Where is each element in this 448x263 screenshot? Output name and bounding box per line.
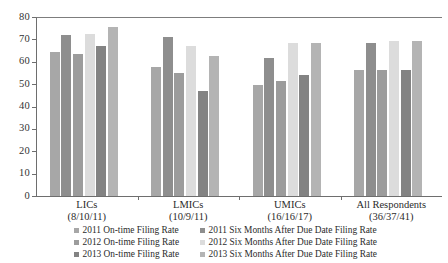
x-axis-group-name: LMICs [173, 199, 203, 210]
legend-item[interactable]: 2013 Six Months After Due Date Filing Ra… [200, 248, 442, 260]
x-axis-group-label: LMICs(10/9/11) [138, 199, 240, 223]
x-axis-group-label: All Respondents(36/37/41) [341, 199, 443, 223]
legend-swatch-icon [200, 240, 205, 245]
x-axis-group-name: All Respondents [356, 199, 426, 210]
x-axis-group-count: (36/37/41) [341, 211, 443, 223]
y-axis-tick-label: 80 [0, 12, 30, 22]
legend-item[interactable]: 2012 Six Months After Due Date Filing Ra… [200, 236, 442, 248]
x-axis-group-label: LICs(8/10/11) [36, 199, 138, 223]
y-axis-tick-label: 70 [0, 34, 30, 44]
x-axis-group-name: UMICs [274, 199, 306, 210]
legend-label: 2013 Six Months After Due Date Filing Ra… [209, 248, 377, 260]
bar [73, 54, 83, 196]
bar-group [253, 17, 321, 196]
bar [163, 37, 173, 196]
bar [366, 43, 376, 196]
y-axis-tick-label: 40 [0, 101, 30, 111]
bar [253, 85, 263, 196]
legend-item[interactable]: 2011 On-time Filing Rate [74, 224, 196, 236]
bar-group [354, 17, 422, 196]
legend-swatch-icon [74, 228, 79, 233]
legend-label: 2011 Six Months After Due Date Filing Ra… [209, 224, 377, 236]
bar [264, 58, 274, 196]
chart-legend: 2011 On-time Filing Rate2011 Six Months … [74, 224, 442, 260]
legend-label: 2013 On-time Filing Rate [83, 248, 180, 260]
legend-swatch-icon [74, 252, 79, 257]
legend-swatch-icon [200, 252, 205, 257]
y-axis-tick-label: 50 [0, 79, 30, 89]
bar [412, 41, 422, 197]
y-axis-tick-label: 60 [0, 56, 30, 66]
bar [61, 35, 71, 196]
legend-swatch-icon [200, 228, 205, 233]
bar [174, 73, 184, 196]
x-axis-group-count: (10/9/11) [138, 211, 240, 223]
bar [198, 91, 208, 196]
bar [151, 67, 161, 196]
legend-label: 2011 On-time Filing Rate [83, 224, 179, 236]
x-axis-group-name: LICs [76, 199, 97, 210]
bar [389, 41, 399, 197]
x-axis-group-count: (16/16/17) [239, 211, 341, 223]
bar-group [50, 17, 118, 196]
bar [108, 27, 118, 196]
bar [50, 52, 60, 196]
legend-swatch-icon [74, 240, 79, 245]
bar [401, 70, 411, 196]
bar-chart: 01020304050607080 LICs(8/10/11)LMICs(10/… [0, 0, 448, 263]
y-axis-tick-label: 20 [0, 146, 30, 156]
x-axis-group-count: (8/10/11) [36, 211, 138, 223]
bar [288, 43, 298, 196]
bar [377, 70, 387, 196]
bar [96, 46, 106, 196]
y-axis-tick-label: 0 [0, 191, 30, 201]
bar-group [151, 17, 219, 196]
x-axis-group-label: UMICs(16/16/17) [239, 199, 341, 223]
bar [311, 43, 321, 196]
bar [85, 34, 95, 196]
legend-item[interactable]: 2011 Six Months After Due Date Filing Ra… [200, 224, 442, 236]
bar [299, 75, 309, 196]
bar [186, 46, 196, 196]
y-axis-tick-label: 10 [0, 168, 30, 178]
legend-item[interactable]: 2013 On-time Filing Rate [74, 248, 196, 260]
bars-layer [36, 17, 442, 196]
legend-label: 2012 Six Months After Due Date Filing Ra… [209, 236, 377, 248]
y-axis-tick-mark [32, 196, 36, 197]
bar [209, 56, 219, 196]
y-axis-tick-label: 30 [0, 123, 30, 133]
legend-item[interactable]: 2012 On-time Filing Rate [74, 236, 196, 248]
bar [354, 70, 364, 196]
legend-label: 2012 On-time Filing Rate [83, 236, 180, 248]
bar [276, 81, 286, 196]
